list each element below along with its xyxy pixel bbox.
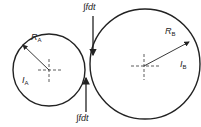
diagram-canvas <box>0 0 201 127</box>
radius-a-arrow <box>23 45 49 70</box>
impulse-top-label: ∫fdt <box>83 2 95 12</box>
radius-b-label: RB <box>165 26 176 37</box>
inertia-a-label: IA <box>22 75 29 86</box>
circle-a <box>13 34 85 106</box>
impulse-bottom-label: ∫fdt <box>76 113 88 123</box>
radius-a-label: RA <box>31 32 42 43</box>
inertia-b-label: IB <box>180 59 187 70</box>
